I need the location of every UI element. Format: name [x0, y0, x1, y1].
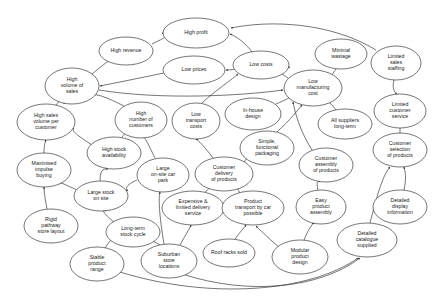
node-roof_racks[interactable]: Roof racks sold — [203, 239, 255, 267]
edge-long_term_stock-to-large_stock_onsite — [103, 210, 115, 223]
node-low_transport_costs[interactable]: Lowtransportcosts — [172, 103, 220, 139]
node-shape-suburban_stores — [141, 244, 197, 278]
edge-suburban_stores-to-large_car_park — [159, 192, 164, 244]
node-high_profit[interactable]: High profit — [163, 18, 229, 48]
node-shape-cust_assembly — [299, 148, 353, 182]
node-shape-inhouse_design — [225, 98, 281, 130]
node-product_transport[interactable]: Producttransport by carpossible — [222, 191, 284, 225]
edge-high_num_customers-to-high_volume_sales — [92, 95, 124, 106]
edge-cust_delivery-to-low_transport_costs — [196, 139, 213, 158]
edge-large_car_park-to-large_stock_onsite — [126, 180, 137, 191]
node-large_car_park[interactable]: Largeon-site carpark — [137, 158, 189, 192]
node-shape-stable_product — [70, 247, 124, 281]
node-easy_assembly[interactable]: Easyproductassembly — [296, 190, 346, 224]
node-shape-detailed_display — [373, 190, 427, 224]
edge-maximised_impulse-to-high_sales_vol_cust — [44, 140, 46, 153]
node-shape-detailed_catalogue — [337, 223, 397, 257]
node-detailed_display[interactable]: Detaileddisplayinformation — [373, 190, 427, 224]
edge-suburban_stores-to-expensive_delivery — [180, 225, 191, 245]
node-inhouse_design[interactable]: In-housedesign — [225, 98, 281, 130]
node-low_prices[interactable]: Low prices — [163, 56, 225, 84]
node-shape-minimal_wastage — [315, 39, 367, 69]
diagram-canvas: High profitHigh revenueLow pricesLow cos… — [0, 0, 448, 301]
edge-high_stock_avail-to-high_sales_vol_cust — [73, 128, 92, 145]
edge-cust_assembly-to-low_mfg_cost — [293, 102, 312, 150]
edge-rigid_pathway-to-maximised_impulse — [44, 187, 47, 209]
node-detailed_catalogue[interactable]: Detailedcataloguesupplied — [337, 223, 397, 257]
node-large_stock_onsite[interactable]: Large stockon site — [74, 181, 128, 211]
node-shape-maximised_impulse — [17, 153, 71, 187]
node-shape-high_num_customers — [115, 102, 167, 138]
node-simple_packaging[interactable]: Simple,functionalpackaging — [240, 131, 294, 165]
edge-roof_racks-to-product_transport — [235, 225, 246, 239]
node-shape-low_transport_costs — [172, 103, 220, 139]
node-expensive_delivery[interactable]: Expensive &limited deliveryservice — [162, 191, 224, 225]
edge-limited_sales_staffing-to-limited_cust_service — [393, 80, 397, 94]
node-low_costs[interactable]: Low costs — [233, 51, 289, 79]
node-long_term_stock[interactable]: Long-termstock cycle — [106, 217, 160, 247]
edge-suburban_stores-to-detailed_catalogue — [182, 258, 360, 287]
node-shape-simple_packaging — [240, 131, 294, 165]
node-cust_assembly[interactable]: Customerassemblyof products — [299, 148, 353, 182]
node-shape-limited_cust_service — [374, 94, 426, 128]
node-shape-low_prices — [163, 56, 225, 84]
node-high_stock_avail[interactable]: High stockavailability — [87, 137, 141, 169]
edge-large_car_park-to-high_num_customers — [142, 137, 155, 158]
node-rigid_pathway[interactable]: Rigidpathwaystore layout — [24, 209, 78, 243]
node-shape-roof_racks — [203, 239, 255, 267]
node-modular_design[interactable]: Modularproductdesign — [272, 240, 328, 274]
node-shape-large_car_park — [137, 158, 189, 192]
diagram-svg: High profitHigh revenueLow pricesLow cos… — [0, 0, 448, 301]
edge-low_costs-to-high_profit — [230, 34, 252, 52]
node-high_volume_sales[interactable]: Highvolume ofsales — [45, 68, 99, 104]
node-shape-high_stock_avail — [87, 137, 141, 169]
edge-simple_packaging-to-low_mfg_cost — [277, 105, 302, 132]
node-shape-rigid_pathway — [24, 209, 78, 243]
node-shape-expensive_delivery — [162, 191, 224, 225]
node-shape-large_stock_onsite — [74, 181, 128, 211]
nodes-layer: High profitHigh revenueLow pricesLow cos… — [17, 18, 427, 281]
node-shape-limited_sales_staffing — [371, 46, 421, 80]
edge-high_volume_sales-to-low_mfg_cost — [99, 90, 283, 96]
edge-large_stock_onsite-to-high_stock_avail — [100, 169, 108, 181]
node-low_mfg_cost[interactable]: Lowmanufacturingcost — [284, 70, 342, 106]
node-shape-cust_selection — [373, 133, 427, 167]
node-shape-modular_design — [272, 240, 328, 274]
node-shape-long_term_stock — [106, 217, 160, 247]
node-all_suppliers_lt[interactable]: All supplierslong-term — [318, 109, 372, 139]
node-shape-all_suppliers_lt — [318, 109, 372, 139]
node-high_revenue[interactable]: High revenue — [99, 37, 153, 65]
edge-low_prices-to-high_volume_sales — [100, 73, 164, 86]
node-maximised_impulse[interactable]: Maximisedimpulsebuying — [17, 153, 71, 187]
node-high_num_customers[interactable]: Highnumber ofcustomers — [115, 102, 167, 138]
node-shape-easy_assembly — [296, 190, 346, 224]
node-shape-product_transport — [222, 191, 284, 225]
node-cust_delivery[interactable]: Customerdeliveryof products — [195, 157, 253, 191]
edge-modular_design-to-product_transport — [256, 226, 280, 248]
node-suburban_stores[interactable]: Suburbanstorelocations — [141, 244, 197, 278]
node-shape-high_revenue — [99, 37, 153, 65]
node-shape-low_mfg_cost — [284, 70, 342, 106]
node-minimal_wastage[interactable]: Minimalwastage — [315, 39, 367, 69]
node-shape-cust_delivery — [195, 157, 253, 191]
edge-easy_assembly-to-cust_assembly — [317, 181, 320, 190]
node-limited_cust_service[interactable]: Limitedcustomerservice — [374, 94, 426, 128]
node-limited_sales_staffing[interactable]: Limitedsalesstaffing — [371, 46, 421, 80]
node-shape-high_volume_sales — [45, 68, 99, 104]
node-cust_selection[interactable]: Customerselectionof products — [373, 133, 427, 167]
node-high_sales_vol_cust[interactable]: High salesvolume percustomer — [17, 104, 75, 140]
node-stable_product[interactable]: Stableproductrange — [70, 247, 124, 281]
node-shape-high_profit — [163, 18, 229, 48]
node-shape-high_sales_vol_cust — [17, 104, 75, 140]
edge-detailed_display-to-cust_selection — [404, 167, 406, 190]
edge-modular_design-to-easy_assembly — [304, 223, 314, 240]
node-shape-low_costs — [233, 51, 289, 79]
